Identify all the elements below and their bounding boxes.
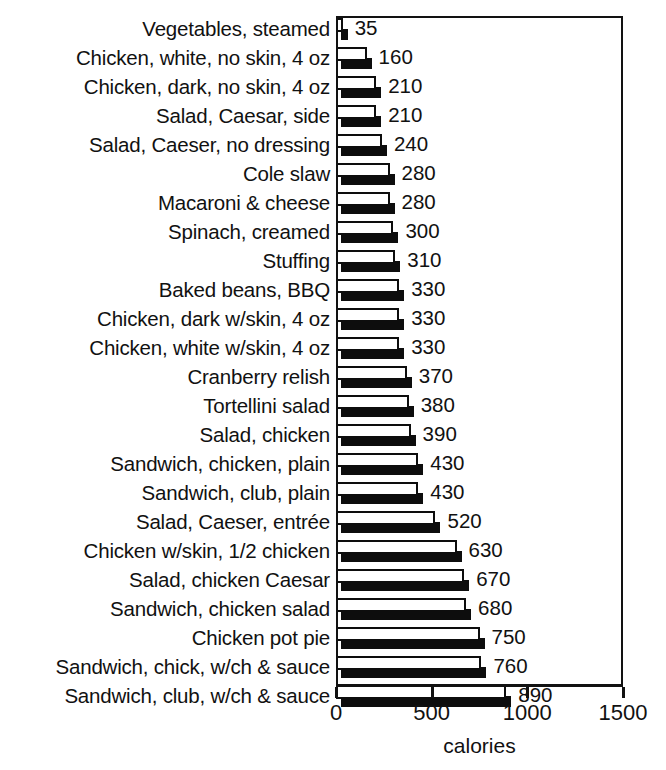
bar-chart: Vegetables, steamed35Chicken, white, no … xyxy=(0,0,666,770)
bar[interactable] xyxy=(336,656,487,681)
bar[interactable] xyxy=(336,279,405,304)
bar-lane: 280 xyxy=(336,190,666,219)
bar-value-label: 330 xyxy=(411,306,445,330)
bar-lane: 750 xyxy=(336,625,666,654)
category-label: Stuffing xyxy=(0,248,330,273)
bar-lane: 210 xyxy=(336,74,666,103)
bar-value-label: 310 xyxy=(407,248,441,272)
bar-face xyxy=(336,105,376,119)
category-label: Chicken w/skin, 1/2 chicken xyxy=(0,538,330,563)
bar-lane: 670 xyxy=(336,567,666,596)
category-label: Salad, Caesar, side xyxy=(0,103,330,128)
bar[interactable] xyxy=(336,627,486,652)
bar-value-label: 380 xyxy=(421,393,455,417)
bar-value-label: 280 xyxy=(402,190,436,214)
bar-face xyxy=(336,569,464,583)
bar-lane: 35 xyxy=(336,16,666,45)
bar[interactable] xyxy=(336,192,396,217)
bar[interactable] xyxy=(336,395,415,420)
bar-lane: 310 xyxy=(336,248,666,277)
category-label: Chicken, white, no skin, 4 oz xyxy=(0,45,330,70)
bar[interactable] xyxy=(336,424,417,449)
bar[interactable] xyxy=(336,569,470,594)
bar-face xyxy=(336,453,418,467)
bar-face xyxy=(336,598,466,612)
bar-value-label: 760 xyxy=(493,654,527,678)
bar[interactable] xyxy=(336,18,349,43)
category-label: Salad, chicken Caesar xyxy=(0,567,330,592)
chart-rows: Vegetables, steamed35Chicken, white, no … xyxy=(0,16,666,712)
x-axis-tick xyxy=(335,687,338,698)
bar-value-label: 300 xyxy=(405,219,439,243)
bar-value-label: 160 xyxy=(379,45,413,69)
bar-lane: 210 xyxy=(336,103,666,132)
chart-row: Salad, Caeser, entrée520 xyxy=(0,509,666,538)
bar-face xyxy=(336,192,390,206)
bar[interactable] xyxy=(336,47,373,72)
bar[interactable] xyxy=(336,221,399,246)
category-label: Chicken pot pie xyxy=(0,625,330,650)
chart-row: Sandwich, chicken, plain430 xyxy=(0,451,666,480)
bar-lane: 430 xyxy=(336,451,666,480)
bar-face xyxy=(336,18,343,32)
bar[interactable] xyxy=(336,540,463,565)
bar-lane: 760 xyxy=(336,654,666,683)
chart-row: Chicken, dark, no skin, 4 oz210 xyxy=(0,74,666,103)
bar-value-label: 330 xyxy=(411,335,445,359)
bar[interactable] xyxy=(336,511,441,536)
bar-face xyxy=(336,279,399,293)
bar[interactable] xyxy=(336,366,413,391)
category-label: Sandwich, club, w/ch & sauce xyxy=(0,683,330,708)
chart-row: Salad, Caesar, side210 xyxy=(0,103,666,132)
category-label: Sandwich, chick, w/ch & sauce xyxy=(0,654,330,679)
category-label: Chicken, dark, no skin, 4 oz xyxy=(0,74,330,99)
bar-face xyxy=(336,482,418,496)
category-label: Tortellini salad xyxy=(0,393,330,418)
bar-face xyxy=(336,250,395,264)
bar[interactable] xyxy=(336,163,396,188)
bar-value-label: 520 xyxy=(447,509,481,533)
chart-row: Baked beans, BBQ330 xyxy=(0,277,666,306)
bar-value-label: 670 xyxy=(476,567,510,591)
chart-row: Salad, chicken390 xyxy=(0,422,666,451)
bar-lane: 370 xyxy=(336,364,666,393)
bar-value-label: 430 xyxy=(430,451,464,475)
bar-value-label: 630 xyxy=(469,538,503,562)
category-label: Sandwich, club, plain xyxy=(0,480,330,505)
bar[interactable] xyxy=(336,76,382,101)
x-axis-title: calories xyxy=(336,734,623,758)
bar[interactable] xyxy=(336,453,424,478)
bar[interactable] xyxy=(336,134,388,159)
bar-lane: 680 xyxy=(336,596,666,625)
bar-value-label: 35 xyxy=(355,16,378,40)
bar[interactable] xyxy=(336,250,401,275)
category-label: Chicken, white w/skin, 4 oz xyxy=(0,335,330,360)
chart-row: Chicken, dark w/skin, 4 oz330 xyxy=(0,306,666,335)
bar-value-label: 430 xyxy=(430,480,464,504)
x-axis-tick-label: 500 xyxy=(413,700,450,726)
bar-face xyxy=(336,540,457,554)
x-axis-tick xyxy=(622,687,625,698)
bar[interactable] xyxy=(336,308,405,333)
bar-value-label: 330 xyxy=(411,277,445,301)
bar[interactable] xyxy=(336,337,405,362)
category-label: Salad, Caeser, no dressing xyxy=(0,132,330,157)
chart-row: Chicken pot pie750 xyxy=(0,625,666,654)
category-label: Salad, Caeser, entrée xyxy=(0,509,330,534)
bar-value-label: 370 xyxy=(419,364,453,388)
bar[interactable] xyxy=(336,482,424,507)
chart-row: Sandwich, chick, w/ch & sauce760 xyxy=(0,654,666,683)
bar-face xyxy=(336,163,390,177)
chart-row: Sandwich, chicken salad680 xyxy=(0,596,666,625)
chart-row: Macaroni & cheese280 xyxy=(0,190,666,219)
chart-row: Cole slaw280 xyxy=(0,161,666,190)
chart-row: Cranberry relish370 xyxy=(0,364,666,393)
bar[interactable] xyxy=(336,105,382,130)
bar-face xyxy=(336,47,367,61)
x-axis-tick-label: 0 xyxy=(330,700,342,726)
category-label: Salad, chicken xyxy=(0,422,330,447)
bar[interactable] xyxy=(336,598,472,623)
category-label: Cole slaw xyxy=(0,161,330,186)
bar-lane: 520 xyxy=(336,509,666,538)
bar-lane: 330 xyxy=(336,335,666,364)
